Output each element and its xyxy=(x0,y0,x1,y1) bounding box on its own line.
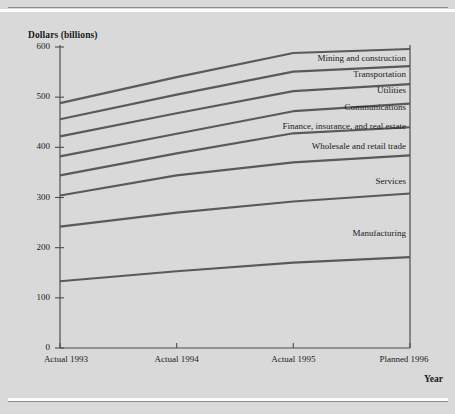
bottom-rule xyxy=(8,401,448,402)
y-tick-label: 600 xyxy=(24,41,50,51)
series-label: Services xyxy=(376,176,407,186)
series-label: Wholesale and retail trade xyxy=(312,141,406,151)
y-tick-label: 100 xyxy=(24,292,50,302)
x-tick-label: Actual 1995 xyxy=(253,354,333,364)
chart-area: Dollars (billions) Year 0100200300400500… xyxy=(0,12,455,398)
y-tick-label: 0 xyxy=(24,342,50,352)
series-label: Utilities xyxy=(377,85,406,95)
x-tick-label: Actual 1994 xyxy=(137,354,217,364)
y-tick-label: 300 xyxy=(24,192,50,202)
y-tick-label: 500 xyxy=(24,91,50,101)
series-lines-group xyxy=(60,49,410,281)
figure-container: Dollars (billions) Year 0100200300400500… xyxy=(0,0,455,414)
x-tick-label: Actual 1993 xyxy=(26,354,106,364)
series-label: Mining and construction xyxy=(318,53,407,63)
series-label: Communications xyxy=(345,102,407,112)
y-tick-label: 400 xyxy=(24,141,50,151)
top-rule xyxy=(8,7,448,8)
x-tick-label: Planned 1996 xyxy=(364,354,444,364)
series-label: Transportation xyxy=(353,69,406,79)
series-label: Finance, insurance, and real estate xyxy=(283,121,406,131)
series-label: Manufacturing xyxy=(353,228,406,238)
y-tick-label: 200 xyxy=(24,242,50,252)
